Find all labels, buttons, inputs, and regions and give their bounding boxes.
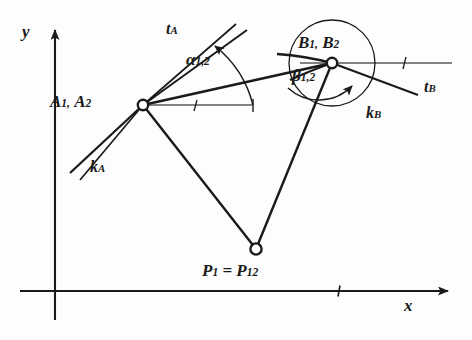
tangent-label-ta-sub: A	[170, 24, 177, 36]
kinematics-diagram: y x A1, A2 B1, B2 P1 = P12 kA kB tA tB α…	[0, 0, 472, 340]
point-label-a-sub2: 2	[86, 97, 92, 110]
x-axis-label: x	[404, 296, 413, 316]
curve-label-ka: kA	[90, 158, 105, 176]
curve-label-kb-main: k	[366, 104, 374, 121]
curve-label-ka-sub: A	[98, 162, 105, 174]
point-label-p-main: P	[202, 261, 212, 280]
segment-b-to-p	[256, 63, 332, 249]
point-label-a-main: A	[50, 92, 61, 111]
curve-ka-ray-1	[70, 105, 143, 173]
point-label-p-eq: =	[218, 261, 236, 280]
point-label-b-sub1: 1,	[309, 38, 318, 51]
angle-label-beta: β1,2	[292, 66, 315, 86]
point-label-a-sub1: 1,	[61, 97, 70, 110]
point-label-p: P1 = P12	[202, 261, 258, 281]
point-marker-a	[138, 100, 148, 110]
point-marker-p	[250, 243, 261, 254]
tangent-label-tb: tB	[424, 78, 436, 96]
diagram-canvas	[0, 0, 472, 340]
curve-label-kb: kB	[366, 104, 381, 122]
x-axis-tick	[338, 286, 340, 297]
curve-kb-left-branch	[277, 54, 332, 63]
curve-label-kb-sub: B	[374, 108, 381, 120]
angle-label-beta-main: β	[292, 66, 301, 85]
angle-alpha-arc	[215, 46, 253, 105]
point-label-b-main2: B	[322, 33, 333, 52]
point-label-p-main2: P	[236, 261, 246, 280]
point-marker-b	[327, 58, 337, 68]
point-label-a: A1, A2	[50, 92, 91, 112]
angle-label-alpha-main: α	[186, 50, 195, 69]
point-label-p-sub2: 12	[247, 266, 259, 279]
point-label-b: B1, B2	[298, 33, 339, 53]
segments-group	[143, 63, 332, 249]
tangent-label-tb-sub: B	[428, 82, 435, 94]
angle-label-alpha: α1,2	[186, 50, 210, 70]
point-label-b-sub2: 2	[334, 38, 340, 51]
angle-label-beta-sub: 1,2	[301, 71, 315, 84]
point-label-a-main2: A	[74, 92, 85, 111]
curve-label-ka-main: k	[90, 158, 98, 175]
curve-ka-group	[70, 105, 143, 180]
point-label-b-main: B	[298, 33, 309, 52]
segment-a-to-p	[143, 105, 256, 249]
y-axis-label: y	[22, 22, 30, 42]
tangent-label-ta: tA	[166, 20, 178, 38]
angle-label-alpha-sub: 1,2	[195, 55, 209, 68]
angle-alpha-group	[215, 46, 253, 112]
